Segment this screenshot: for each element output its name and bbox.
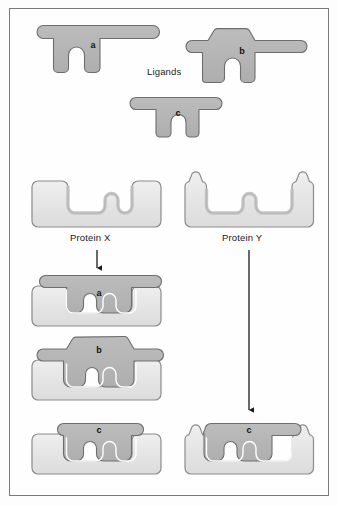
ligand-b: b bbox=[186, 29, 307, 83]
complex-x-c: c bbox=[32, 424, 161, 475]
complex-x-c-letter: c bbox=[96, 425, 101, 435]
ligand-a: a bbox=[37, 26, 160, 73]
complex-y-c-letter: c bbox=[246, 425, 251, 435]
ligands-heading: Ligands bbox=[147, 66, 181, 77]
ligand-c-letter: c bbox=[175, 108, 180, 118]
protein-x-shape bbox=[32, 181, 161, 227]
protein-y-label: Protein Y bbox=[222, 232, 262, 243]
ligand-c: c bbox=[130, 98, 222, 138]
complex-y-c: c bbox=[185, 424, 314, 475]
figure-root: a b c a bbox=[0, 0, 338, 506]
protein-y-shape bbox=[185, 172, 314, 227]
protein-x-label: Protein X bbox=[70, 232, 110, 243]
ligand-b-letter: b bbox=[239, 46, 245, 56]
complex-x-b-letter: b bbox=[96, 345, 102, 355]
complex-x-a: a bbox=[32, 275, 162, 326]
complex-x-b: b bbox=[32, 337, 164, 401]
